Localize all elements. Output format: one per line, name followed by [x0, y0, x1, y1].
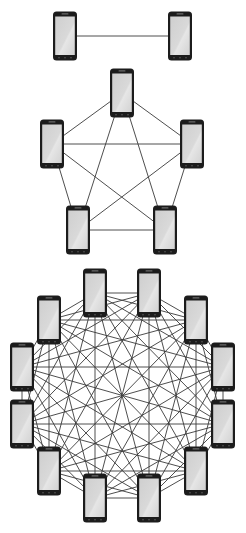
smartphone-icon [211, 343, 235, 392]
network-diagram [0, 0, 246, 533]
smartphone-icon [37, 296, 61, 345]
smartphone-icon [168, 12, 192, 61]
smartphone-icon [137, 474, 161, 523]
smartphone-icon [211, 400, 235, 449]
smartphone-icon [83, 269, 107, 318]
smartphone-icon [110, 69, 134, 118]
smartphone-icon [180, 120, 204, 169]
smartphone-icon [40, 120, 64, 169]
smartphone-icon [184, 447, 208, 496]
smartphone-icon [53, 12, 77, 61]
smartphone-icon [66, 206, 90, 255]
smartphone-icon [184, 296, 208, 345]
smartphone-icon [10, 343, 34, 392]
smartphone-icon [83, 474, 107, 523]
smartphone-icon [153, 206, 177, 255]
smartphone-icon [37, 447, 61, 496]
smartphone-icon [137, 269, 161, 318]
smartphone-icon [10, 400, 34, 449]
complete-graph-5-nodes-nodes [40, 69, 204, 255]
